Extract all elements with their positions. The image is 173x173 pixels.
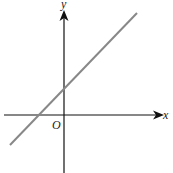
coordinate-diagram: y x O: [0, 0, 173, 173]
origin-label: O: [52, 118, 61, 132]
graph-line: [10, 13, 137, 145]
y-axis-label: y: [60, 0, 67, 11]
x-axis-label: x: [162, 108, 169, 122]
